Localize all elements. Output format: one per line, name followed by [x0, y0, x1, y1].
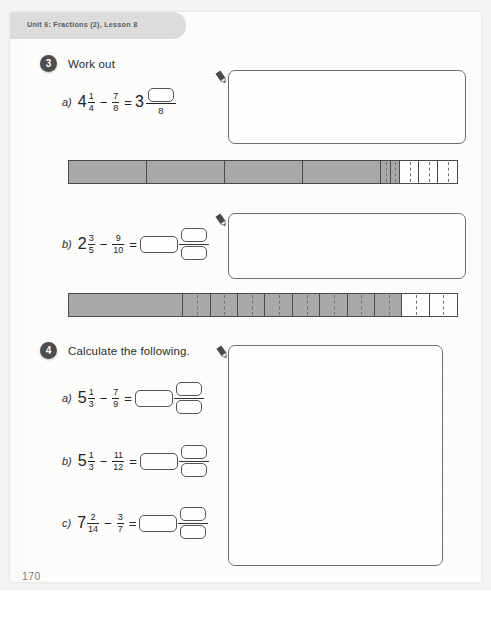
numerator: 9 [115, 234, 122, 244]
denominator: 14 [87, 523, 99, 534]
fraction-3a-second: 7 8 [112, 92, 119, 113]
bar2-fifth-8 [375, 294, 402, 316]
answer-box-4a-numerator[interactable] [176, 382, 202, 396]
fraction-4a-second: 7 9 [112, 388, 119, 409]
equals-sign-3b: = [129, 237, 137, 252]
bar2-fifth-5 [293, 294, 320, 316]
numerator: 7 [112, 388, 119, 398]
bar2-fifth-7 [348, 294, 375, 316]
answer-fraction-4a [174, 382, 204, 414]
working-box-4[interactable] [228, 345, 443, 566]
bar-whole-3 [225, 161, 303, 183]
bar-part-eighth-1 [381, 161, 391, 183]
fraction-3b-second: 9 10 [112, 234, 124, 255]
answer-whole-3a: 3 [135, 94, 144, 110]
question-number-badge-4: 4 [40, 342, 57, 359]
mixed-whole-4c: 7 [77, 515, 86, 531]
answer-box-4c-denominator[interactable] [180, 525, 206, 539]
part-label-3a: a) [62, 96, 72, 108]
pencil-icon [216, 343, 233, 360]
answer-box-4b-denominator[interactable] [181, 463, 207, 477]
bar2-fifth-9 [402, 294, 429, 316]
part-label-4a: a) [62, 392, 72, 404]
fraction-4a-first: 1 3 [88, 388, 95, 409]
mixed-whole-3b: 2 [78, 236, 87, 252]
answer-fraction-3b [179, 228, 209, 260]
fraction-4c-first: 2 14 [87, 513, 99, 534]
answer-box-4c-numerator[interactable] [180, 507, 206, 521]
answer-box-3b-denominator[interactable] [181, 246, 207, 260]
answer-fraction-4c [178, 507, 208, 539]
answer-box-3a-numerator[interactable] [148, 88, 174, 102]
bar-whole-4 [303, 161, 381, 183]
numerator: 3 [117, 513, 124, 523]
expression-4c: c) 7 2 14 − 3 7 = [62, 507, 208, 539]
equals-sign-4a: = [124, 391, 132, 406]
question-title-4: Calculate the following. [68, 345, 190, 357]
answer-box-4b-numerator[interactable] [181, 445, 207, 459]
denominator: 12 [112, 461, 124, 472]
part-label-4c: c) [62, 517, 71, 529]
unit-tab: Unit 6: Fractions (2), Lesson 8 [10, 12, 186, 39]
answer-box-4b-whole[interactable] [140, 453, 178, 470]
numerator: 7 [112, 92, 119, 102]
expression-4b: b) 5 1 3 − 11 12 = [62, 445, 209, 477]
pencil-icon [215, 68, 232, 85]
part-label-3b: b) [62, 238, 72, 250]
mixed-whole-4b: 5 [78, 453, 87, 469]
page-scan: Unit 6: Fractions (2), Lesson 8 3 Work o… [0, 0, 491, 635]
bar-whole-1 [69, 161, 147, 183]
fraction-bar [178, 523, 208, 524]
page-number: 170 [22, 570, 41, 582]
denominator: 7 [117, 523, 124, 534]
mixed-whole-4a: 5 [78, 390, 87, 406]
denominator: 3 [88, 398, 95, 409]
numerator: 11 [113, 451, 124, 461]
bar-part-eighth-5 [438, 161, 457, 183]
numerator: 3 [88, 234, 95, 244]
fraction-bar [174, 398, 204, 399]
operator-3b: − [100, 237, 108, 252]
unit-tab-label: Unit 6: Fractions (2), Lesson 8 [27, 20, 137, 29]
bar2-fifth-6 [320, 294, 347, 316]
bar2-fifth-1 [183, 294, 210, 316]
bar2-fifth-10 [430, 294, 457, 316]
working-box-3a[interactable] [228, 70, 466, 144]
equals-sign-3a: = [124, 95, 132, 110]
denominator: 9 [112, 398, 119, 409]
numerator: 1 [88, 92, 95, 102]
answer-fraction-3a: 8 [146, 88, 176, 116]
part-label-4b: b) [62, 455, 72, 467]
numerator: 1 [88, 388, 95, 398]
answer-box-3b-whole[interactable] [140, 236, 178, 253]
operator-4c: − [104, 516, 112, 531]
answer-denominator-3a: 8 [146, 103, 176, 116]
denominator: 5 [88, 244, 95, 255]
bar2-fifth-2 [211, 294, 238, 316]
working-box-3b[interactable] [228, 213, 466, 279]
answer-fraction-4b [179, 445, 209, 477]
footer-bar: PUPIL PRACTICE BOOK 5APAGE 170 [0, 590, 491, 635]
equals-sign-4b: = [129, 454, 137, 469]
bar-model-2 [68, 293, 458, 317]
bar-whole-2 [147, 161, 225, 183]
answer-box-3b-numerator[interactable] [181, 228, 207, 242]
pencil-icon [215, 211, 232, 228]
bar-model-1 [68, 160, 458, 184]
denominator: 4 [88, 102, 95, 113]
answer-box-4a-denominator[interactable] [176, 400, 202, 414]
bar2-whole-1 [69, 294, 183, 316]
fraction-bar [179, 461, 209, 462]
denominator: 8 [112, 102, 119, 113]
bar-part-eighth-3 [400, 161, 419, 183]
equals-sign-4c: = [129, 516, 137, 531]
fraction-3b-first: 3 5 [88, 234, 95, 255]
numerator: 2 [90, 513, 97, 523]
bar-part-eighth-2 [391, 161, 401, 183]
expression-4a: a) 5 1 3 − 7 9 = [62, 382, 204, 414]
answer-box-4c-whole[interactable] [139, 515, 177, 532]
expression-3b: b) 2 3 5 − 9 10 = [62, 228, 209, 260]
bar-part-eighth-4 [419, 161, 438, 183]
fraction-4b-first: 1 3 [88, 451, 95, 472]
answer-box-4a-whole[interactable] [135, 390, 173, 407]
